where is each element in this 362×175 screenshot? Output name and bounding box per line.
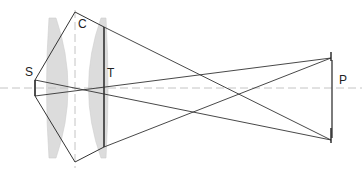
label-c: C xyxy=(78,17,87,31)
label-p: P xyxy=(339,73,347,87)
ray-s-top-through-center xyxy=(35,80,331,140)
label-t: T xyxy=(107,66,115,80)
ray-t-top-to-p-bottom xyxy=(104,27,331,140)
ray-s-bottom-through-center xyxy=(35,58,331,96)
ray-t-bottom-to-p-top xyxy=(104,58,331,147)
label-s: S xyxy=(25,65,33,79)
ray-diagram: S C T P xyxy=(0,0,362,175)
